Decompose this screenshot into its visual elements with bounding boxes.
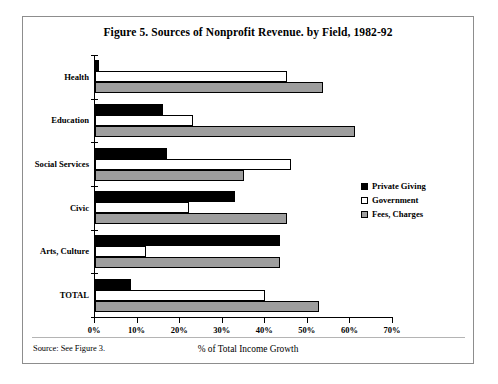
bar xyxy=(95,202,189,213)
category-group-civic: Civic xyxy=(95,186,393,230)
x-tick-label-20%: 20% xyxy=(171,325,188,335)
category-label: Arts, Culture xyxy=(40,246,89,256)
legend-label: Government xyxy=(372,194,418,207)
legend-swatch-icon xyxy=(361,197,368,204)
bar xyxy=(95,71,287,82)
legend-item: Private Giving xyxy=(361,180,426,193)
bar xyxy=(95,126,355,137)
category-label: Civic xyxy=(70,203,89,213)
bar xyxy=(95,301,319,312)
category-group-social-services: Social Services xyxy=(95,142,393,186)
category-group-total: TOTAL xyxy=(95,273,393,317)
x-tick-label-60%: 60% xyxy=(341,325,358,335)
x-axis-line xyxy=(94,317,392,318)
x-tick-70% xyxy=(392,317,393,323)
chart-legend: Private GivingGovernmentFees, Charges xyxy=(361,180,426,222)
bar xyxy=(95,235,280,246)
bar xyxy=(95,257,280,268)
bar xyxy=(95,148,167,159)
bar xyxy=(95,213,287,224)
bar xyxy=(95,115,193,126)
x-axis-title: % of Total Income Growth xyxy=(23,344,473,354)
category-label: Health xyxy=(64,72,89,82)
bar xyxy=(95,60,99,71)
figure-frame: Figure 5. Sources of Nonprofit Revenue. … xyxy=(22,16,474,364)
legend-label: Fees, Charges xyxy=(372,208,423,221)
bar xyxy=(95,104,163,115)
category-group-arts-culture: Arts, Culture xyxy=(95,230,393,274)
category-label: Social Services xyxy=(35,159,89,169)
legend-item: Fees, Charges xyxy=(361,208,426,221)
x-tick-label-0%: 0% xyxy=(88,325,101,335)
legend-swatch-icon xyxy=(361,211,368,218)
bar xyxy=(95,279,131,290)
legend-item: Government xyxy=(361,194,426,207)
x-tick-label-70%: 70% xyxy=(384,325,401,335)
x-tick-60% xyxy=(349,317,350,323)
bar xyxy=(95,246,146,257)
x-tick-20% xyxy=(179,317,180,323)
bar xyxy=(95,191,235,202)
bar xyxy=(95,82,323,93)
category-label: TOTAL xyxy=(60,290,89,300)
y-tick xyxy=(91,317,98,318)
category-label: Education xyxy=(51,115,89,125)
bar xyxy=(95,170,244,181)
legend-swatch-icon xyxy=(361,183,368,190)
x-tick-40% xyxy=(264,317,265,323)
x-tick-label-50%: 50% xyxy=(298,325,315,335)
x-tick-label-10%: 10% xyxy=(128,325,145,335)
category-group-health: Health xyxy=(95,55,393,99)
page-title: Figure 5. Sources of Nonprofit Revenue. … xyxy=(23,26,473,38)
x-tick-label-40%: 40% xyxy=(256,325,273,335)
x-tick-label-30%: 30% xyxy=(213,325,230,335)
x-tick-10% xyxy=(137,317,138,323)
bar xyxy=(95,290,265,301)
bar xyxy=(95,159,291,170)
x-tick-30% xyxy=(222,317,223,323)
footer-divider xyxy=(32,337,465,338)
x-tick-50% xyxy=(307,317,308,323)
legend-label: Private Giving xyxy=(372,180,426,193)
category-group-education: Education xyxy=(95,99,393,143)
